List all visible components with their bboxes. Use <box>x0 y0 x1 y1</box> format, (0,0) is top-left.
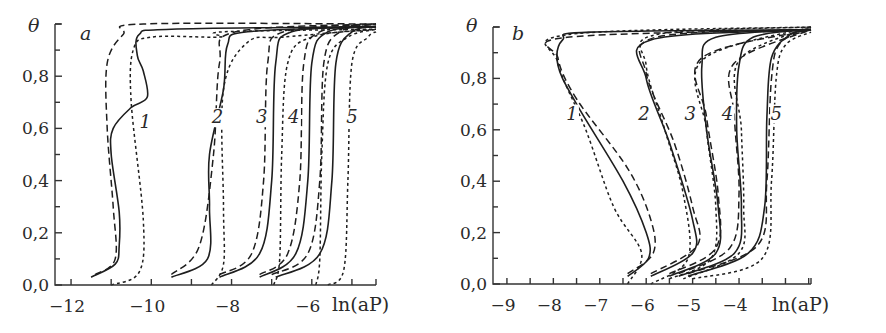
curve-label-5: 5 <box>346 106 357 127</box>
curve-3-dashed <box>220 24 377 275</box>
y-tick-label: 0,0 <box>460 274 487 294</box>
figure: 12345 0,00,20,40,60,8−12−10−8−6 θ a ln(a… <box>0 0 886 333</box>
y-tick-label: 0,4 <box>22 171 49 191</box>
curve-label-4: 4 <box>287 106 299 127</box>
x-tick-label: −5 <box>676 295 701 315</box>
x-tick-label: −9 <box>490 295 515 315</box>
curve-label-1: 1 <box>140 111 151 132</box>
panel-b: 12345 0,00,20,40,60,8−9−8−7−6−5−4 θ b ln… <box>460 14 829 315</box>
y-axis-title-a: θ <box>28 14 40 36</box>
curve-3-solid <box>220 27 377 278</box>
y-tick-label: 0,6 <box>22 118 49 138</box>
x-tick-label: −12 <box>49 296 85 316</box>
curve-label-1: 1 <box>566 103 577 124</box>
x-tick-label: −6 <box>630 295 655 315</box>
curve-label-3: 3 <box>685 103 696 124</box>
x-tick-label: −8 <box>537 295 562 315</box>
curve-4-solid <box>679 30 811 277</box>
x-tick-label: −6 <box>295 296 320 316</box>
curve-5-solid <box>276 27 376 278</box>
y-tick-label: 0,2 <box>460 223 487 243</box>
curve-4-solid <box>260 27 376 278</box>
y-tick-label: 0,2 <box>22 223 49 243</box>
curve-1-dotted <box>111 29 376 285</box>
plot-area-a: 12345 <box>91 23 376 285</box>
curve-label-5: 5 <box>770 103 781 124</box>
curve-label-2: 2 <box>637 103 649 124</box>
curve-5-dashed <box>272 24 376 275</box>
curve-label-3: 3 <box>256 106 267 127</box>
x-axis-title-a: ln(aP) <box>332 293 389 315</box>
curve-label-4: 4 <box>721 103 733 124</box>
x-tick-label: −4 <box>723 295 748 315</box>
y-tick-label: 0,0 <box>22 275 49 295</box>
axes-a: 0,00,20,40,60,8−12−10−8−6 <box>22 24 376 316</box>
curve-2-solid <box>636 30 811 277</box>
curve-5-solid <box>688 30 811 277</box>
y-tick-label: 0,8 <box>22 66 49 86</box>
y-tick-label: 0,8 <box>460 68 487 88</box>
x-tick-label: −8 <box>215 296 240 316</box>
curve-5-dashed <box>688 30 811 274</box>
curve-3-dotted <box>274 29 376 285</box>
axis-line <box>493 27 811 284</box>
curve-2-dashed <box>639 30 811 274</box>
x-axis-title-b: ln(aP) <box>772 293 829 315</box>
panel-label-a: a <box>80 22 91 44</box>
panel-a: 12345 0,00,20,40,60,8−12−10−8−6 θ a ln(a… <box>22 14 389 316</box>
panel-label-b: b <box>512 22 524 44</box>
x-tick-label: −10 <box>129 296 165 316</box>
y-tick-label: 0,4 <box>460 171 487 191</box>
curve-label-2: 2 <box>211 106 223 127</box>
x-tick-label: −7 <box>583 295 608 315</box>
plot-area-b: 12345 <box>545 27 811 284</box>
curve-1-dashed <box>545 30 811 274</box>
curve-2-dotted <box>212 29 377 285</box>
y-tick-label: 0,6 <box>460 120 487 140</box>
y-axis-title-b: θ <box>466 14 478 36</box>
curve-4-dashed <box>260 24 376 275</box>
curve-2-dotted <box>640 27 811 284</box>
curve-4-dotted <box>316 29 376 285</box>
